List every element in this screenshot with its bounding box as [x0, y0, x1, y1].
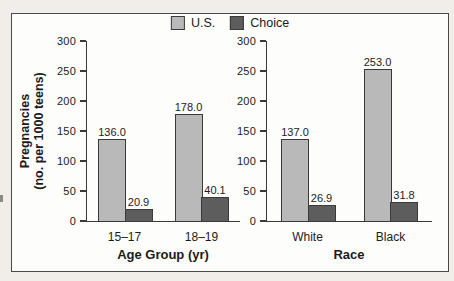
bar-value-race-0-us: 137.0: [281, 126, 309, 138]
age-y-tick-label-100: 100: [57, 155, 76, 167]
chart-frame: U.S. Choice Pregnancies (no. per 1000 te…: [11, 13, 449, 272]
panel-race-bars: 137.026.9253.031.8: [267, 41, 432, 221]
race-y-tick-300: [260, 40, 266, 42]
legend-item-us: U.S.: [171, 16, 215, 30]
age-y-tick-label-150: 150: [57, 125, 76, 137]
age-group-0: 136.020.9: [98, 139, 153, 221]
race-y-tick-label-300: 300: [237, 35, 256, 47]
panel-age-group: 136.020.9178.040.1 050100150200250300 15…: [86, 41, 240, 262]
panel-age-plot: 136.020.9178.040.1 050100150200250300: [86, 41, 240, 222]
panel-race: 137.026.9253.031.8 050100150200250300 Wh…: [266, 41, 432, 262]
bar-value-age-1-choice: 40.1: [204, 184, 225, 196]
bar-age-1-us: 178.0: [175, 114, 203, 221]
age-y-tick-50: [80, 190, 86, 192]
x-axis-title-age-group: Age Group (yr): [86, 247, 240, 262]
panel-age-categories: 15–1718–19: [86, 230, 240, 244]
race-y-tick-label-0: 0: [250, 215, 256, 227]
bar-value-age-1-us: 178.0: [175, 101, 203, 113]
bar-age-1-choice: 40.1: [201, 197, 229, 221]
age-y-tick-label-200: 200: [57, 95, 76, 107]
race-y-tick-label-100: 100: [237, 155, 256, 167]
bar-value-race-0-choice: 26.9: [311, 192, 332, 204]
age-y-tick-150: [80, 130, 86, 132]
age-y-tick-100: [80, 160, 86, 162]
race-y-tick-200: [260, 100, 266, 102]
race-group-1: 253.031.8: [364, 69, 419, 221]
race-y-tick-label-50: 50: [243, 185, 256, 197]
race-y-tick-150: [260, 130, 266, 132]
age-y-tick-250: [80, 70, 86, 72]
race-group-0: 137.026.9: [281, 139, 336, 221]
x-axis-title-race: Race: [266, 247, 432, 262]
age-y-tick-label-0: 0: [70, 215, 76, 227]
race-y-tick-label-250: 250: [237, 65, 256, 77]
age-group-1: 178.040.1: [175, 114, 230, 221]
figure: U.S. Choice Pregnancies (no. per 1000 te…: [0, 0, 454, 281]
bar-age-0-choice: 20.9: [125, 209, 153, 222]
age-y-tick-label-300: 300: [57, 35, 76, 47]
panel-age-bars: 136.020.9178.040.1: [87, 41, 240, 221]
bar-value-race-1-us: 253.0: [364, 56, 392, 68]
bar-race-1-us: 253.0: [364, 69, 392, 221]
bar-age-0-us: 136.0: [98, 139, 126, 221]
bar-value-age-0-us: 136.0: [98, 126, 126, 138]
race-y-tick-label-150: 150: [237, 125, 256, 137]
legend-label-us: U.S.: [191, 16, 215, 30]
age-y-tick-label-250: 250: [57, 65, 76, 77]
panel-race-categories: WhiteBlack: [266, 230, 432, 244]
bar-value-age-0-choice: 20.9: [128, 196, 149, 208]
race-category-label-1: Black: [361, 230, 421, 244]
legend-label-choice: Choice: [250, 16, 289, 30]
race-y-tick-label-200: 200: [237, 95, 256, 107]
scan-artifact: [0, 195, 3, 202]
legend-item-choice: Choice: [230, 16, 289, 30]
bar-race-1-choice: 31.8: [390, 202, 418, 221]
bar-race-0-choice: 26.9: [308, 205, 336, 221]
y-axis-title: Pregnancies (no. per 1000 teens): [15, 41, 49, 221]
choice-swatch-icon: [230, 16, 244, 30]
race-category-label-0: White: [278, 230, 338, 244]
age-category-label-1: 18–19: [172, 230, 232, 244]
us-swatch-icon: [171, 16, 185, 30]
race-y-tick-100: [260, 160, 266, 162]
bar-race-0-us: 137.0: [281, 139, 309, 221]
race-y-tick-250: [260, 70, 266, 72]
age-y-tick-300: [80, 40, 86, 42]
age-category-label-0: 15–17: [95, 230, 155, 244]
race-y-tick-50: [260, 190, 266, 192]
age-y-tick-label-50: 50: [63, 185, 76, 197]
age-y-tick-200: [80, 100, 86, 102]
bar-value-race-1-choice: 31.8: [393, 189, 414, 201]
legend: U.S. Choice: [171, 16, 289, 30]
y-axis-title-line1: Pregnancies: [18, 72, 32, 189]
age-y-tick-0: [80, 220, 86, 222]
panel-race-plot: 137.026.9253.031.8 050100150200250300: [266, 41, 432, 222]
y-axis-title-line2: (no. per 1000 teens): [32, 72, 46, 189]
race-y-tick-0: [260, 220, 266, 222]
